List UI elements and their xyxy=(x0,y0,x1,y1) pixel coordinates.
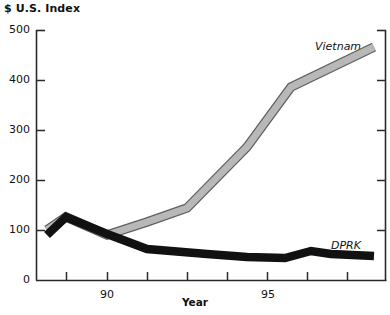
plot-area xyxy=(0,0,390,315)
x-tick-marks xyxy=(67,272,348,280)
chart-container: $ U.S. Index 500 400 300 200 100 0 90 95… xyxy=(0,0,390,315)
series-line-dprk xyxy=(47,217,374,258)
y-tick-marks-right xyxy=(377,81,386,231)
y-tick-marks xyxy=(36,81,45,231)
series-line-vietnam xyxy=(47,47,374,235)
